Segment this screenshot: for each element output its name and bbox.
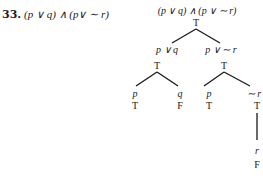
leaf-r: r (255, 146, 259, 156)
edge-root-right (196, 29, 220, 43)
leaf-p-left-value: T (132, 101, 138, 111)
problem-formula: (p ∨ q) ∧ (p∨ ∼ r) (24, 9, 109, 20)
leaf-r-value: F (254, 160, 260, 170)
truth-tree-edges (0, 0, 263, 176)
root-formula: (p ∨ q) ∧ (p ∨ ∼ r) (158, 6, 237, 16)
edge-left-q (157, 72, 178, 86)
edge-right-p (204, 72, 224, 86)
edge-root-left (172, 29, 196, 43)
root-truth-value: T (193, 18, 199, 28)
leaf-p-left: p (133, 89, 138, 99)
leaf-p-right: p (207, 89, 212, 99)
leaf-not-r: ∼ r (247, 89, 261, 99)
left-formula: p ∨ q (156, 45, 178, 55)
leaf-q: q (178, 89, 183, 99)
problem-number: 33. (2, 9, 21, 20)
leaf-q-value: F (177, 101, 183, 111)
left-truth-value: T (154, 61, 160, 71)
right-truth-value: T (221, 61, 227, 71)
edge-right-notr (224, 72, 250, 86)
right-formula: p ∨ ∼ r (205, 45, 236, 55)
edge-left-p (136, 72, 157, 86)
leaf-not-r-value: T (254, 101, 260, 111)
leaf-p-right-value: T (206, 101, 212, 111)
